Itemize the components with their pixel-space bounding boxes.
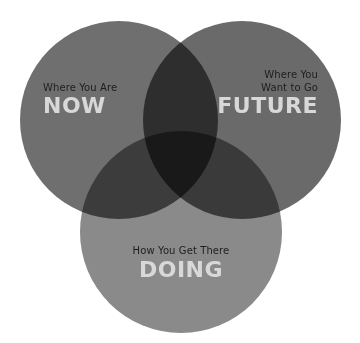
now-title: NOW [43,95,106,117]
doing-title: DOING [0,259,360,281]
circle-doing [80,131,282,333]
doing-subtitle: How You Get There [0,246,360,256]
future-subtitle-line1: Where You [264,70,318,80]
now-subtitle: Where You Are [43,83,117,93]
future-subtitle-line2: Want to Go [261,83,318,93]
future-title: FUTURE [217,95,318,117]
